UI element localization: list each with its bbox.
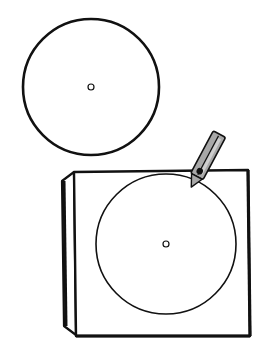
illustration: [0, 0, 266, 359]
platter-record-disc: [96, 174, 236, 314]
loose-record-disc: [23, 19, 159, 155]
spindle-hole: [88, 84, 94, 90]
spindle-hole: [163, 241, 169, 247]
